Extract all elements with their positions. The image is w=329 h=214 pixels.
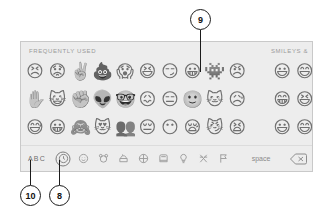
emoji-key[interactable]: 🐱 bbox=[204, 86, 226, 112]
travel-category-icon[interactable] bbox=[153, 146, 173, 172]
callout-badge-10: 10 bbox=[20, 185, 41, 206]
space-key[interactable]: space bbox=[239, 146, 283, 172]
emoji-key[interactable]: 😪 bbox=[181, 114, 203, 140]
emoji-key[interactable]: 👥 bbox=[114, 114, 136, 140]
emoji-row: ✋😺✊👽🤓😖😑🙂🐱😥😁😆 bbox=[24, 85, 313, 113]
emoji-key[interactable]: 💩 bbox=[91, 58, 113, 84]
objects-category-icon[interactable] bbox=[173, 146, 193, 172]
emoji-keyboard-panel: FREQUENTLY USED SMILEYS & 😣😟✌️💩😱😆😏😀👾😠😃😄✋… bbox=[20, 41, 313, 172]
emoji-key[interactable]: 😣 bbox=[24, 58, 46, 84]
emoji-key[interactable]: 😟 bbox=[46, 58, 68, 84]
emoji-key[interactable]: ✋ bbox=[24, 86, 46, 112]
emoji-grid: 😣😟✌️💩😱😆😏😀👾😠😃😄✋😺✊👽🤓😖😑🙂🐱😥😁😆😅😀🙈😻👥😔😶😪😼😫😃😄 bbox=[24, 57, 313, 141]
emoji-key[interactable]: ✌️ bbox=[69, 58, 91, 84]
emoji-key[interactable]: 😑 bbox=[159, 86, 181, 112]
callout-leader-line-10 bbox=[30, 160, 31, 185]
activity-category-icon[interactable] bbox=[133, 146, 153, 172]
emoji-keyboard-toolbar: ABC bbox=[21, 145, 312, 171]
symbols-category-icon[interactable] bbox=[193, 146, 213, 172]
callout-leader-line-8 bbox=[59, 160, 60, 185]
emoji-key[interactable]: 😀 bbox=[46, 114, 68, 140]
emoji-key[interactable]: 😆 bbox=[136, 58, 158, 84]
emoji-key[interactable]: 🙂 bbox=[181, 86, 203, 112]
emoji-key[interactable]: 😃 bbox=[271, 114, 293, 140]
emoji-key[interactable]: 👾 bbox=[204, 58, 226, 84]
flags-category-icon[interactable] bbox=[213, 146, 233, 172]
emoji-key[interactable]: 😄 bbox=[294, 114, 313, 140]
smileys-category-icon[interactable] bbox=[73, 146, 93, 172]
emoji-key[interactable]: ✊ bbox=[69, 86, 91, 112]
emoji-key[interactable]: 🙈 bbox=[69, 114, 91, 140]
food-category-icon[interactable] bbox=[113, 146, 133, 172]
emoji-key[interactable]: 😁 bbox=[271, 86, 293, 112]
emoji-key[interactable]: 😫 bbox=[226, 114, 248, 140]
emoji-key[interactable]: 😖 bbox=[136, 86, 158, 112]
emoji-key[interactable]: 👽 bbox=[91, 86, 113, 112]
callout-leader-line-9 bbox=[200, 30, 201, 72]
emoji-key[interactable]: 😺 bbox=[46, 86, 68, 112]
section-header-frequently-used: FREQUENTLY USED bbox=[29, 48, 96, 54]
delete-backspace-icon[interactable] bbox=[285, 146, 311, 172]
emoji-row: 😅😀🙈😻👥😔😶😪😼😫😃😄 bbox=[24, 113, 313, 141]
abc-key[interactable]: ABC bbox=[21, 146, 53, 172]
emoji-key[interactable]: 😃 bbox=[271, 58, 293, 84]
emoji-key[interactable]: 😅 bbox=[24, 114, 46, 140]
animals-category-icon[interactable] bbox=[93, 146, 113, 172]
emoji-key[interactable]: 😥 bbox=[226, 86, 248, 112]
emoji-key[interactable]: 😱 bbox=[114, 58, 136, 84]
emoji-key[interactable]: 😻 bbox=[91, 114, 113, 140]
emoji-key[interactable]: 😔 bbox=[136, 114, 158, 140]
emoji-key[interactable]: 😼 bbox=[204, 114, 226, 140]
emoji-key[interactable]: 🤓 bbox=[114, 86, 136, 112]
selected-ring bbox=[56, 151, 71, 166]
emoji-row: 😣😟✌️💩😱😆😏😀👾😠😃😄 bbox=[24, 57, 313, 85]
emoji-key[interactable]: 😏 bbox=[159, 58, 181, 84]
emoji-key[interactable]: 😠 bbox=[226, 58, 248, 84]
callout-badge-8: 8 bbox=[49, 185, 70, 206]
callout-badge-9: 9 bbox=[190, 9, 211, 30]
emoji-key[interactable]: 😶 bbox=[159, 114, 181, 140]
emoji-key[interactable]: 😆 bbox=[294, 86, 313, 112]
emoji-key[interactable]: 😄 bbox=[294, 58, 313, 84]
recent-category-icon[interactable] bbox=[53, 146, 73, 172]
section-header-smileys: SMILEYS & bbox=[271, 48, 308, 54]
